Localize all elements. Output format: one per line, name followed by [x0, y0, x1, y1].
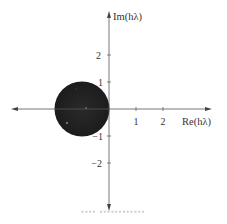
x-axis-right-arrow-icon [205, 107, 212, 111]
y-tick-label-1: 1 [98, 77, 103, 88]
stability-region-diagram: 1 2 2 1 −1 −2 Im(hλ) Re(hλ) [0, 0, 227, 224]
x-axis-left-arrow-icon [11, 107, 18, 111]
disk-speck [66, 122, 68, 124]
y-axis-label: Im(hλ) [113, 11, 143, 23]
figure-caption: ▪▪▪▪ ▪▪▪▪▪▪▪▪▪▪▪▪ [0, 207, 227, 216]
x-tick-label-1: 1 [134, 116, 139, 127]
y-axis-up-arrow-icon [107, 11, 111, 18]
x-tick-label-2: 2 [161, 116, 166, 127]
y-tick-label-neg2: −2 [91, 158, 102, 169]
disk-speck [75, 88, 76, 89]
y-tick-label-2: 2 [96, 50, 101, 61]
y-tick-label-neg1: −1 [92, 131, 103, 142]
x-axis-label: Re(hλ) [182, 116, 212, 128]
